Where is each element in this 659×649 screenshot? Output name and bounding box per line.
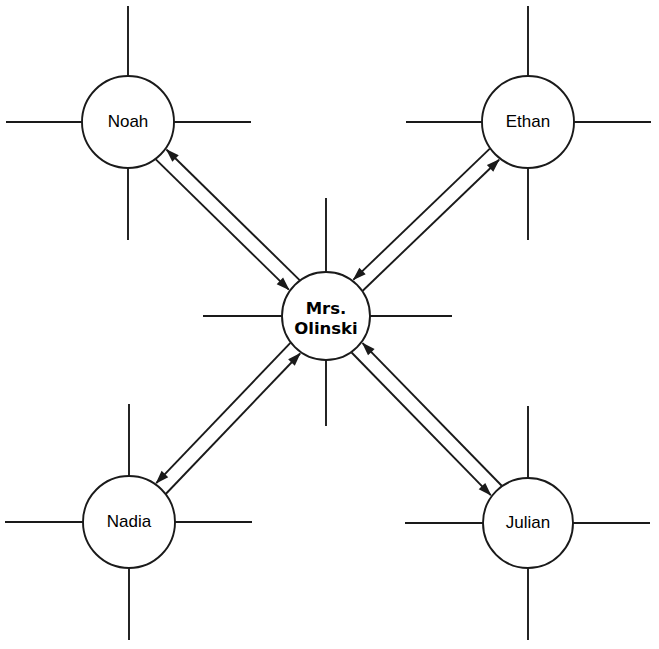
node-julian[interactable]: Julian <box>483 478 573 568</box>
link-line-olinski-ethan-reverse <box>353 149 489 280</box>
node-olinski[interactable]: Mrs.Olinski <box>282 272 370 360</box>
node-noah[interactable]: Noah <box>82 76 174 168</box>
node-nadia[interactable]: Nadia <box>83 476 175 568</box>
node-label-noah: Noah <box>108 112 149 131</box>
diagram-canvas: NoahEthanNadiaJulianMrs.Olinski <box>0 0 659 649</box>
node-label-julian: Julian <box>506 513 550 532</box>
relationship-diagram: NoahEthanNadiaJulianMrs.Olinski <box>0 0 659 649</box>
node-label-nadia: Nadia <box>107 512 152 531</box>
link-line-olinski-nadia-reverse <box>166 353 300 493</box>
link-line-olinski-ethan-forward <box>363 160 499 291</box>
node-label-line2-olinski: Olinski <box>294 318 358 337</box>
connection-olinski-ethan[interactable] <box>353 149 500 291</box>
nodes-layer: NoahEthanNadiaJulianMrs.Olinski <box>82 76 574 568</box>
link-line-olinski-noah-forward <box>167 150 300 280</box>
connection-olinski-julian[interactable] <box>352 342 502 495</box>
node-label-line1-olinski: Mrs. <box>306 299 347 318</box>
link-line-olinski-noah-reverse <box>156 159 289 289</box>
node-label-ethan: Ethan <box>506 112 550 131</box>
node-ethan[interactable]: Ethan <box>482 76 574 168</box>
link-line-olinski-nadia-forward <box>156 343 290 483</box>
connection-olinski-nadia[interactable] <box>156 343 301 494</box>
link-line-olinski-julian-reverse <box>363 343 502 486</box>
connection-olinski-noah[interactable] <box>156 149 300 290</box>
link-line-olinski-julian-forward <box>352 353 491 496</box>
